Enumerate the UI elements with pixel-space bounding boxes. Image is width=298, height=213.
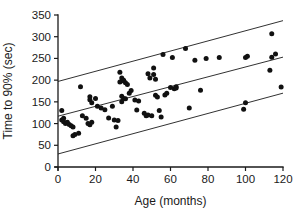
data-point [155,95,160,100]
data-point [61,116,66,121]
y-tick-label: 100 [32,118,51,130]
data-point [136,98,141,103]
data-point [204,56,209,61]
x-tick-label: 120 [273,173,292,185]
data-point [110,104,115,109]
data-point [153,77,158,82]
data-point [273,52,278,57]
data-point [243,100,248,105]
data-point [159,115,164,120]
data-point [241,107,246,112]
data-point [87,94,92,99]
y-tick-label: 150 [32,96,51,108]
y-tick-label: 200 [32,74,51,86]
x-tick-label: 100 [236,173,255,185]
data-point [114,125,119,130]
upper-limit-line [58,21,283,82]
y-axis-title: Time to 90% (sec) [1,43,15,140]
data-point [267,68,272,73]
data-point [245,54,250,59]
data-point [157,108,162,113]
data-point [151,65,156,70]
data-points-group [59,31,283,138]
data-point [174,84,179,89]
data-point [170,55,175,60]
x-axis-title: Age (months) [134,194,206,208]
x-tick-label: 40 [127,173,140,185]
data-point [106,115,111,120]
y-tick-label: 0 [45,161,51,173]
data-point [129,88,134,93]
x-tick-label: 60 [164,173,177,185]
data-point [71,125,76,130]
x-tick-label: 80 [202,173,215,185]
data-point [149,113,154,118]
data-point [93,96,98,101]
data-point [269,31,274,36]
data-point [146,71,151,76]
x-tick-label: 20 [89,173,102,185]
data-point [59,108,64,113]
y-tick-label: 350 [32,9,51,21]
data-point [89,120,94,125]
data-point [217,55,222,60]
y-tick-label: 300 [32,31,51,43]
data-point [125,82,130,87]
y-axis-tick-labels: 050100150200250300350 [32,9,51,173]
data-point [279,85,284,90]
chart-canvas: 050100150200250300350 020406080100120 Ag… [0,0,298,213]
data-point [84,116,89,121]
x-tick-label: 0 [55,173,61,185]
data-point [151,72,156,77]
data-point [147,75,152,80]
x-axis-tick-labels: 020406080100120 [55,173,293,185]
data-point [134,108,139,113]
data-point [198,88,203,93]
data-point [183,46,188,51]
data-point [116,118,121,123]
data-point [117,70,122,75]
y-tick-label: 50 [38,139,51,151]
scatter-plot-figure: 050100150200250300350 020406080100120 Ag… [0,0,298,213]
data-point [123,96,128,101]
data-point [161,52,166,57]
data-point [192,58,197,63]
data-point [164,91,169,96]
data-point [89,100,94,105]
data-point [187,105,192,110]
data-point [78,84,83,89]
data-point [102,107,107,112]
y-tick-label: 250 [32,52,51,64]
data-point [76,131,81,136]
